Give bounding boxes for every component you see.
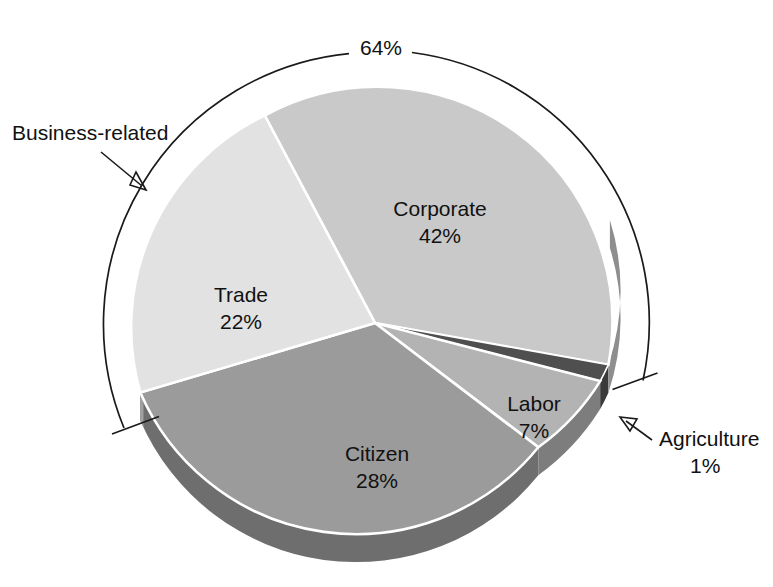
label-agriculture-value: 1%	[690, 454, 720, 477]
business-related-arrow-line	[101, 152, 142, 186]
agriculture-arrow-head	[620, 417, 637, 431]
label-citizen-value: 28%	[356, 469, 398, 492]
label-business-related: Business-related	[12, 121, 168, 144]
bracket-tick-right	[613, 373, 658, 390]
label-corporate-value: 42%	[419, 224, 461, 247]
label-corporate-name: Corporate	[393, 197, 486, 220]
label-citizen-name: Citizen	[345, 442, 409, 465]
label-trade-value: 22%	[220, 310, 262, 333]
agriculture-callout: Agriculture 1%	[620, 417, 759, 477]
label-trade-name: Trade	[214, 283, 268, 306]
pie-chart-figure: Corporate 42% Trade 22% Citizen 28% Labo…	[0, 0, 773, 587]
label-labor-value: 7%	[519, 419, 549, 442]
pie-chart-svg: Corporate 42% Trade 22% Citizen 28% Labo…	[0, 0, 773, 587]
bracket-label-64: 64%	[360, 36, 402, 59]
label-agriculture-name: Agriculture	[659, 427, 759, 450]
label-labor-name: Labor	[507, 392, 561, 415]
